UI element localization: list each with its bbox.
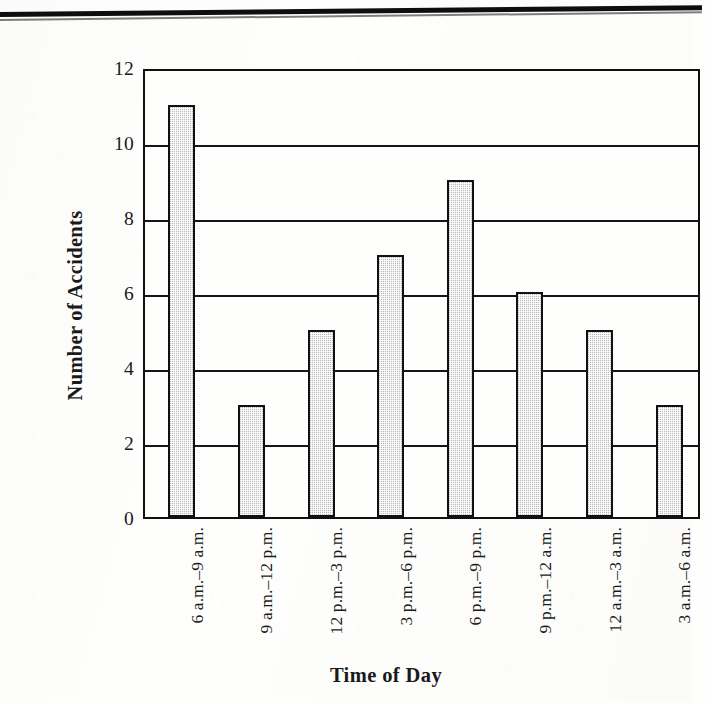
bar[interactable] <box>308 330 335 518</box>
x-tick-label-2: 12 p.m.–3 p.m. <box>326 527 347 677</box>
y-tick-label-0: 0 <box>94 509 134 529</box>
bar-slot <box>447 67 474 517</box>
x-tick-label-text: 9 a.m.–12 p.m. <box>256 527 277 633</box>
plot-area <box>143 69 700 519</box>
y-axis-tick-labels: 024681012 <box>92 16 134 703</box>
x-tick-label-3: 3 p.m.–6 p.m. <box>396 527 417 677</box>
y-tick-label-10: 10 <box>94 134 134 154</box>
x-tick-label-text: 3 p.m.–6 p.m. <box>396 527 417 626</box>
x-axis-title: Time of Day <box>40 664 706 687</box>
bar[interactable] <box>168 105 195 518</box>
bar[interactable] <box>238 405 265 518</box>
bar-chart-figure: Number of Accidents 024681012 6 a.m.–9 a… <box>40 16 706 703</box>
x-tick-label-1: 9 a.m.–12 p.m. <box>256 527 277 677</box>
bars-layer <box>145 71 698 517</box>
bar[interactable] <box>377 255 404 518</box>
x-tick-label-text: 6 p.m.–9 p.m. <box>465 527 486 626</box>
bar[interactable] <box>586 330 613 518</box>
bar-slot <box>238 67 265 517</box>
bar[interactable] <box>447 180 474 518</box>
y-tick-label-6: 6 <box>94 284 134 304</box>
bar-slot <box>168 67 195 517</box>
x-tick-label-text: 6 a.m.–9 a.m. <box>187 527 208 624</box>
y-tick-label-12: 12 <box>94 59 134 79</box>
y-tick-label-4: 4 <box>94 359 134 379</box>
bar-slot <box>377 67 404 517</box>
x-tick-label-0: 6 a.m.–9 a.m. <box>187 527 208 677</box>
y-tick-label-8: 8 <box>94 209 134 229</box>
bar-slot <box>586 67 613 517</box>
x-tick-label-5: 9 p.m.–12 a.m. <box>535 527 556 677</box>
x-tick-label-text: 12 a.m.–3 a.m. <box>605 527 626 632</box>
x-tick-label-6: 12 a.m.–3 a.m. <box>605 527 626 677</box>
bar-slot <box>656 67 683 517</box>
bar[interactable] <box>656 405 683 518</box>
x-tick-label-text: 3 a.m.–6 a.m. <box>674 527 695 624</box>
y-axis-title: Number of Accidents <box>64 196 87 416</box>
bar-slot <box>308 67 335 517</box>
x-tick-label-text: 9 p.m.–12 a.m. <box>535 527 556 633</box>
x-tick-label-text: 12 p.m.–3 p.m. <box>326 527 347 634</box>
y-tick-label-2: 2 <box>94 434 134 454</box>
bar-slot <box>516 67 543 517</box>
x-tick-label-4: 6 p.m.–9 p.m. <box>465 527 486 677</box>
x-tick-label-7: 3 a.m.–6 a.m. <box>674 527 695 677</box>
bar[interactable] <box>516 292 543 517</box>
